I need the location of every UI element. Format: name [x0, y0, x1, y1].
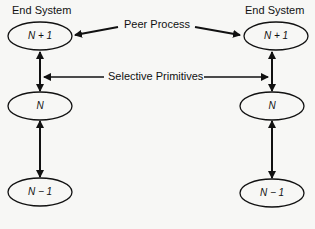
peer-process-left-arrow	[75, 27, 118, 35]
right-node-n-label: N	[242, 100, 302, 111]
left-node-n-minus-1-label: N − 1	[10, 186, 70, 197]
left-node-n-plus-1-label: N + 1	[10, 30, 70, 41]
left-system-title: End System	[12, 4, 71, 16]
left-node-n-label: N	[10, 100, 70, 111]
right-node-n-plus-1-label: N + 1	[246, 30, 306, 41]
right-node-n-minus-1-label: N − 1	[242, 187, 302, 198]
selective-primitives-label: Selective Primitives	[108, 70, 203, 82]
peer-process-label: Peer Process	[124, 18, 190, 30]
peer-process-right-arrow	[195, 27, 240, 35]
right-system-title: End System	[245, 4, 304, 16]
